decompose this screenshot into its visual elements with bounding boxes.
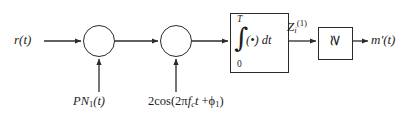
output-signal-arg: (t) [383,32,395,47]
output-signal-base: m' [371,32,383,47]
block-diagram-canvas: r(t) m'(t) PN1(t) 2cos(2πfct +ϕ1) Zi(1) … [0,0,412,117]
carrier-prefix: 2cos(2π [148,94,188,108]
decision-variable-label: Zi(1) [287,19,307,35]
carrier-close-paren: ) [219,94,223,108]
decision-variable-superscript: (1) [297,18,307,28]
input-signal-label: r(t) [14,33,31,46]
despread-code-label: PN1(t) [73,95,105,109]
despread-code-arg: (t) [93,94,105,108]
input-signal-arg: (t) [19,32,31,47]
despreading-multiplier[interactable] [83,25,115,57]
downconversion-multiplier[interactable] [160,25,192,57]
integral-lower-limit: 0 [237,60,242,70]
integrand-expression: (•) dt [246,34,272,47]
carrier-plus-sign: + [198,94,208,108]
output-signal-label: m'(t) [371,33,395,46]
despread-code-base: PN [73,94,89,108]
carrier-reference-label: 2cos(2πfct +ϕ1) [148,95,224,109]
comparator-threshold-icon: ≳ [328,34,343,47]
